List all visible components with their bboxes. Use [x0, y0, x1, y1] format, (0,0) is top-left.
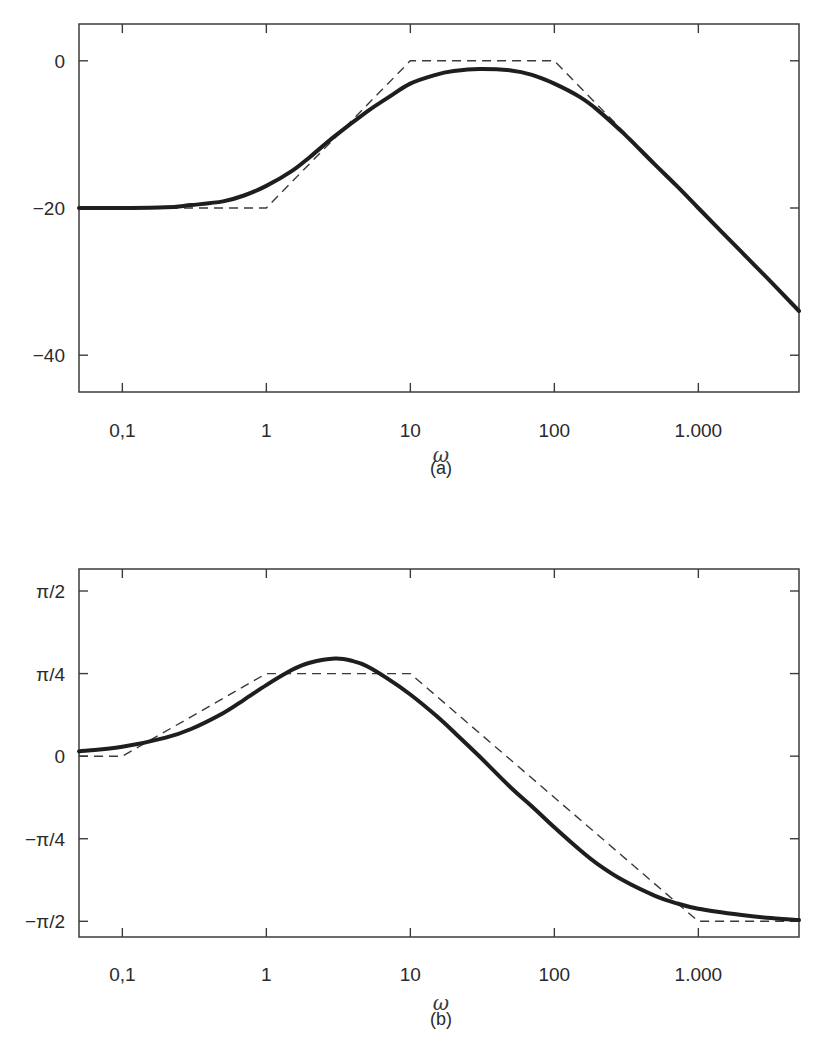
asymptote-dashed-line	[79, 674, 799, 922]
y-tick-label: π/4	[36, 664, 65, 685]
y-tick-label: −π/2	[25, 911, 65, 932]
bode-figure: 0,11101001.000 0−20−40 ω (a) 0,11101001.…	[0, 0, 821, 1055]
x-tick-label: 1	[261, 964, 272, 985]
y-tick-label: −40	[33, 345, 65, 366]
phase-plot: 0,11101001.000 π/2π/40−π/4−π/2 ω (b)	[25, 569, 799, 1029]
x-tick-label: 10	[400, 964, 421, 985]
x-tick-label: 100	[538, 420, 570, 441]
x-tick-label: 0,1	[109, 964, 135, 985]
x-tick-label: 1.000	[675, 964, 723, 985]
plot-frame	[79, 569, 799, 937]
y-tick-label: −20	[33, 198, 65, 219]
panel-caption: (b)	[430, 1009, 452, 1029]
x-tick-label: 100	[538, 964, 570, 985]
x-tick-label: 10	[400, 420, 421, 441]
x-tick-label: 1	[261, 420, 272, 441]
y-tick-label: π/2	[36, 581, 65, 602]
x-axis-ticks: 0,11101001.000	[109, 569, 722, 985]
y-tick-label: −π/4	[25, 829, 65, 850]
y-tick-label: 0	[54, 51, 65, 72]
asymptote-dashed-line	[79, 61, 799, 311]
y-tick-label: 0	[54, 746, 65, 767]
panel-caption: (a)	[430, 458, 452, 478]
y-axis-ticks: π/2π/40−π/4−π/2	[25, 581, 799, 932]
magnitude-curve	[79, 69, 799, 311]
x-axis-ticks: 0,11101001.000	[109, 24, 722, 441]
magnitude-plot: 0,11101001.000 0−20−40 ω (a)	[33, 24, 799, 478]
x-tick-label: 0,1	[109, 420, 135, 441]
x-tick-label: 1.000	[675, 420, 723, 441]
